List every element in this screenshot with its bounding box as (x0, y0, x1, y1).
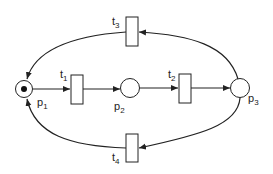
label-t4: t4 (112, 151, 120, 166)
transition-t2 (179, 74, 191, 103)
label-t1: t1 (60, 68, 68, 83)
label-p1: p1 (37, 96, 48, 111)
label-p2: p2 (114, 100, 125, 115)
transition-t4 (126, 134, 138, 162)
arc-t3-p1 (27, 32, 126, 79)
transition-t1 (71, 75, 83, 104)
place-p2 (121, 79, 140, 98)
transition-t3 (126, 17, 138, 46)
arc-p3-t3 (139, 32, 238, 79)
petri-net-diagram: p1 p2 p3 t1 t2 t3 t4 (0, 0, 273, 174)
label-t3: t3 (112, 15, 120, 30)
token-p1 (21, 86, 27, 92)
arc-p3-t4 (139, 98, 240, 148)
label-t2: t2 (168, 68, 176, 83)
label-p3: p3 (248, 92, 259, 107)
place-p3 (231, 79, 250, 98)
